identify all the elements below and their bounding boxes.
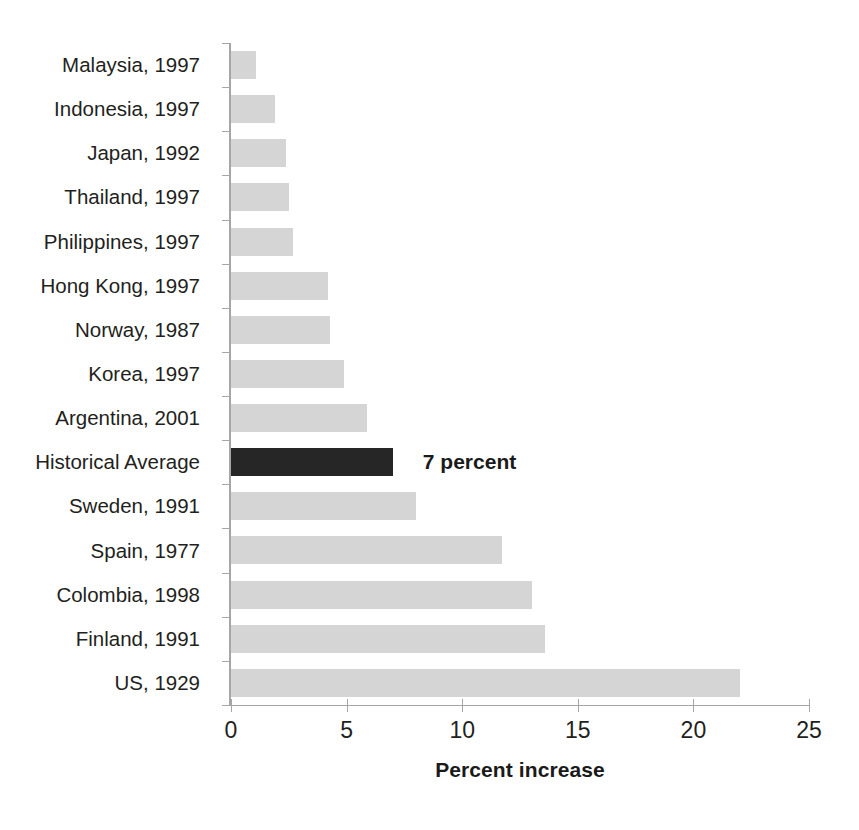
- bar: [231, 492, 416, 520]
- y-axis-tick: [222, 440, 231, 441]
- bar-row: [231, 484, 809, 528]
- bar: [231, 625, 545, 653]
- y-axis-tick: [222, 264, 231, 265]
- category-label: Sweden, 1991: [0, 493, 200, 519]
- x-axis-tick-label: 10: [432, 716, 492, 744]
- x-axis-tick-label: 20: [663, 716, 723, 744]
- x-axis-tick-label: 25: [779, 716, 839, 744]
- bar-row: [231, 528, 809, 572]
- x-axis-title: Percent increase: [231, 758, 809, 782]
- x-axis-tick: [809, 699, 810, 712]
- x-axis-tick: [347, 699, 348, 712]
- category-label: Malaysia, 1997: [0, 52, 200, 78]
- x-axis-line: [231, 705, 809, 706]
- category-label: Norway, 1987: [0, 317, 200, 343]
- category-label: Argentina, 2001: [0, 405, 200, 431]
- bar-row: [231, 131, 809, 175]
- category-label: US, 1929: [0, 670, 200, 696]
- bar: [231, 581, 532, 609]
- y-axis-tick: [222, 705, 231, 706]
- x-axis-tick-label: 0: [201, 716, 261, 744]
- bar-row: [231, 43, 809, 87]
- x-axis-tick: [693, 699, 694, 712]
- y-axis-tick: [222, 661, 231, 662]
- x-axis-tick-label: 15: [548, 716, 608, 744]
- bar: [231, 360, 344, 388]
- y-axis-tick: [222, 43, 231, 44]
- category-label: Indonesia, 1997: [0, 96, 200, 122]
- y-axis-tick: [222, 528, 231, 529]
- y-axis-tick: [222, 352, 231, 353]
- y-axis-tick: [222, 308, 231, 309]
- category-label: Thailand, 1997: [0, 184, 200, 210]
- bar-row: [231, 573, 809, 617]
- y-axis-tick: [222, 617, 231, 618]
- bar: [231, 272, 328, 300]
- bar-chart: 7 percent 0510152025 Malaysia, 1997Indon…: [0, 0, 859, 830]
- bar: [231, 228, 293, 256]
- category-label: Colombia, 1998: [0, 582, 200, 608]
- y-axis-tick: [222, 220, 231, 221]
- x-axis-tick: [462, 699, 463, 712]
- bar-row: [231, 396, 809, 440]
- x-axis-tick: [231, 699, 232, 712]
- bar-row: [231, 308, 809, 352]
- bar: [231, 316, 330, 344]
- y-axis-tick: [222, 573, 231, 574]
- category-label: Japan, 1992: [0, 140, 200, 166]
- category-label: Philippines, 1997: [0, 229, 200, 255]
- category-label: Spain, 1977: [0, 538, 200, 564]
- category-label: Historical Average: [0, 449, 200, 475]
- bar: [231, 95, 275, 123]
- category-label: Finland, 1991: [0, 626, 200, 652]
- plot-area: 7 percent: [231, 43, 809, 705]
- bar-row: [231, 617, 809, 661]
- category-label: Korea, 1997: [0, 361, 200, 387]
- bar-row: [231, 220, 809, 264]
- bar-value-annotation: 7 percent: [423, 449, 516, 475]
- bar-row: [231, 352, 809, 396]
- y-axis-tick: [222, 484, 231, 485]
- bar: [231, 404, 367, 432]
- bar-row: 7 percent: [231, 440, 809, 484]
- bar: [231, 51, 256, 79]
- bar: [231, 183, 289, 211]
- bar: [231, 139, 286, 167]
- x-axis-tick: [578, 699, 579, 712]
- y-axis-tick: [222, 175, 231, 176]
- x-axis-tick-label: 5: [317, 716, 377, 744]
- bar: [231, 536, 502, 564]
- bar: [231, 448, 393, 476]
- y-axis-tick: [222, 87, 231, 88]
- bar-row: [231, 87, 809, 131]
- bar-row: [231, 661, 809, 705]
- bar: [231, 669, 740, 697]
- category-label: Hong Kong, 1997: [0, 273, 200, 299]
- bar-row: [231, 175, 809, 219]
- bar-row: [231, 264, 809, 308]
- y-axis-tick: [222, 396, 231, 397]
- y-axis-tick: [222, 131, 231, 132]
